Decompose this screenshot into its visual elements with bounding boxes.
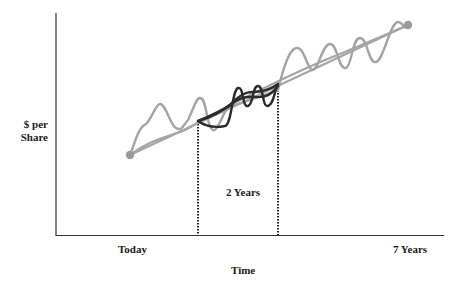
end-point xyxy=(404,21,412,29)
start-point xyxy=(126,151,134,159)
x-tick-7-years: 7 Years xyxy=(393,243,427,256)
y-axis-label: $ per Share xyxy=(20,118,48,144)
y-axis-label-line1: $ per xyxy=(20,118,48,131)
y-axis-label-line2: Share xyxy=(20,131,48,144)
window-label: 2 Years xyxy=(226,186,260,199)
x-axis-label: Time xyxy=(231,264,255,277)
x-tick-today: Today xyxy=(118,243,147,256)
